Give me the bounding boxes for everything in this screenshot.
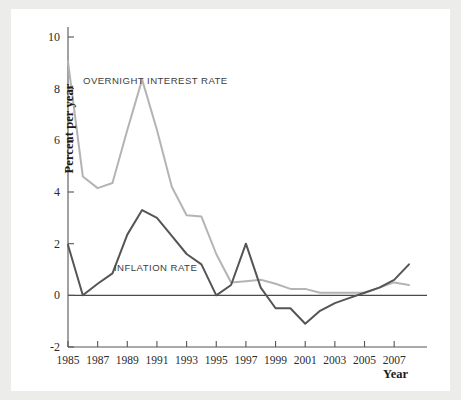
y-axis-tick-label: 2 [54, 237, 60, 251]
figure-panel: -202468101985198719891991199319951997199… [11, 9, 450, 391]
x-axis-tick-label: 2007 [383, 354, 406, 366]
x-axis-tick-label: 1991 [145, 354, 168, 366]
y-axis-tick-label: 8 [54, 82, 60, 96]
x-axis-tick-label: 1997 [234, 354, 257, 366]
x-axis-tick-label: 1987 [86, 354, 109, 366]
y-axis-tick-label: 10 [48, 30, 60, 44]
y-axis-tick-label: 4 [54, 185, 60, 199]
figure-root: -202468101985198719891991199319951997199… [0, 0, 461, 400]
x-axis-tick-label: 1995 [205, 354, 228, 366]
x-axis-tick-label: 1985 [57, 354, 80, 366]
y-axis-tick-label: -2 [50, 340, 60, 354]
x-axis-tick-label: 2003 [323, 354, 346, 366]
y-axis-tick-label: 6 [54, 133, 60, 147]
x-axis-tick-label: 2001 [294, 354, 317, 366]
x-axis-tick-label: 1993 [175, 354, 198, 366]
x-axis-tick-label: 2005 [353, 354, 376, 366]
x-axis-tick-label: 1999 [264, 354, 287, 366]
overnight-interest-rate-label: OVERNIGHT INTEREST RATE [83, 75, 228, 86]
x-axis-tick-label: 1989 [116, 354, 139, 366]
y-axis-title: Percent per year [62, 49, 77, 209]
inflation-rate-label: INFLATION RATE [114, 262, 197, 273]
chart-plot-area: -202468101985198719891991199319951997199… [11, 9, 450, 391]
y-axis-tick-label: 0 [54, 288, 60, 302]
x-axis-title: Year [383, 367, 408, 382]
